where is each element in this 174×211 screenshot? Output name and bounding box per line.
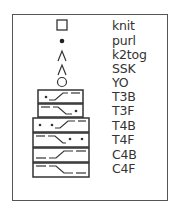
label-t4f: T4F: [112, 133, 134, 147]
label-k2tog: k2tog: [112, 48, 147, 62]
label-t4b: T4B: [112, 119, 136, 133]
label-knit: knit: [112, 19, 135, 33]
label-t3f: T3F: [112, 104, 134, 118]
ssk-icon: [58, 65, 66, 75]
legend-symbols: [0, 0, 174, 211]
c4b-cable-icon: [33, 148, 89, 162]
label-yo: YO: [112, 76, 128, 90]
label-c4f: C4F: [112, 162, 135, 176]
t3f-cable-icon: [38, 104, 83, 117]
label-ssk: SSK: [112, 62, 135, 76]
label-purl: purl: [112, 34, 136, 48]
yo-circle-icon: [58, 78, 67, 87]
t3b-cable-icon: [38, 90, 83, 103]
label-c4b: C4B: [112, 148, 137, 162]
c4f-cable-icon: [33, 163, 89, 177]
label-t3b: T3B: [112, 90, 136, 104]
purl-dot-icon: [60, 39, 65, 44]
t4f-cable-icon: [33, 133, 89, 147]
t4b-cable-icon: [33, 118, 89, 132]
knit-square-icon: [57, 20, 67, 30]
k2tog-icon: [58, 51, 66, 61]
